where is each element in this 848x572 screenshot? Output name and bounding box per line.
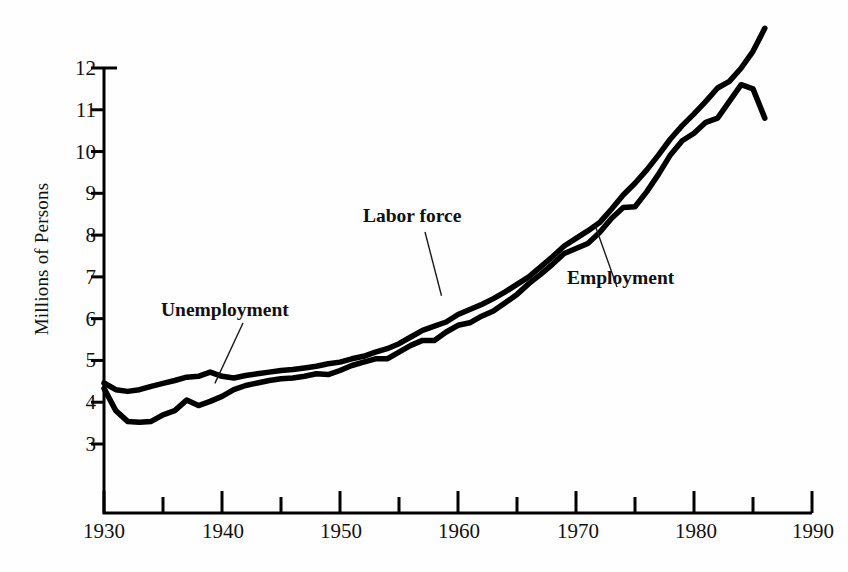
plot-area <box>0 0 848 572</box>
area-unemployment <box>104 28 765 422</box>
line-employment <box>104 85 765 423</box>
line-labor-force <box>104 28 765 391</box>
axes <box>91 68 812 513</box>
chart-figure: Millions of Persons 12 11 10 9 8 7 6 5 4… <box>0 0 848 572</box>
annotation-leader-lines <box>215 225 617 384</box>
